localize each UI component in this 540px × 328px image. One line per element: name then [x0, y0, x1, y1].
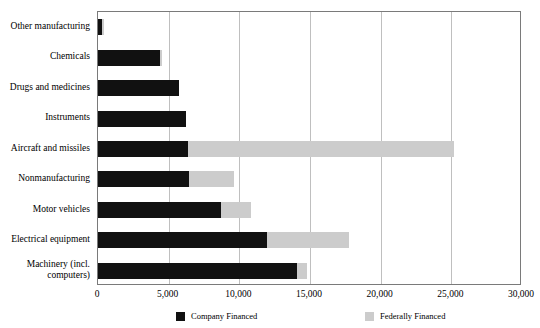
- legend-swatch-icon: [176, 312, 185, 321]
- bar-row: [98, 225, 520, 255]
- bar-row: [98, 134, 520, 164]
- bar-segment-federally-financed[interactable]: [221, 202, 251, 218]
- category-label: Drugs and medicines: [0, 82, 93, 93]
- bar-segment-federally-financed[interactable]: [189, 171, 234, 187]
- bar-row: [98, 73, 520, 103]
- bar-segment-federally-financed[interactable]: [188, 141, 454, 157]
- category-label-line: Instruments: [0, 112, 90, 123]
- bar-segment-federally-financed[interactable]: [267, 232, 349, 248]
- bar-row: [98, 256, 520, 286]
- category-label: Motor vehicles: [0, 204, 93, 215]
- bar-segment-company-financed[interactable]: [98, 50, 160, 66]
- bar-segment-company-financed[interactable]: [98, 80, 179, 96]
- stacked-bar[interactable]: [98, 232, 349, 248]
- legend-item[interactable]: Federally Financed: [365, 311, 445, 321]
- chart-legend: Company FinancedFederally Financed: [0, 311, 540, 325]
- bar-segment-federally-financed[interactable]: [160, 50, 162, 66]
- stacked-bar[interactable]: [98, 50, 162, 66]
- bar-segment-company-financed[interactable]: [98, 202, 221, 218]
- category-label: Aircraft and missiles: [0, 143, 93, 154]
- category-label-line: computers): [0, 270, 90, 281]
- legend-swatch-icon: [365, 312, 374, 321]
- bar-segment-federally-financed[interactable]: [102, 19, 104, 35]
- category-axis-labels: Other manufacturingChemicalsDrugs and me…: [0, 11, 93, 285]
- bar-row: [98, 103, 520, 133]
- value-tick-label: 20,000: [367, 288, 393, 300]
- value-axis-labels: 05,00010,00015,00020,00025,00030,000: [0, 288, 540, 302]
- category-label: Instruments: [0, 112, 93, 123]
- stacked-bar[interactable]: [98, 19, 104, 35]
- stacked-bar[interactable]: [98, 171, 234, 187]
- stacked-bar[interactable]: [98, 263, 307, 279]
- bar-row: [98, 164, 520, 194]
- category-label-line: Drugs and medicines: [0, 82, 90, 93]
- legend-item[interactable]: Company Financed: [176, 311, 257, 321]
- bar-segment-company-financed[interactable]: [98, 263, 297, 279]
- value-tick-label: 0: [95, 288, 100, 300]
- category-label: Chemicals: [0, 51, 93, 62]
- category-label-line: Electrical equipment: [0, 234, 90, 245]
- category-label-line: Chemicals: [0, 51, 90, 62]
- category-label-line: Machinery (incl.: [0, 259, 90, 270]
- legend-label: Federally Financed: [380, 311, 445, 321]
- category-label: Electrical equipment: [0, 234, 93, 245]
- bar-segment-company-financed[interactable]: [98, 232, 267, 248]
- value-tick-label: 25,000: [437, 288, 463, 300]
- category-label-line: Nonmanufacturing: [0, 173, 90, 184]
- value-tick-label: 5,000: [157, 288, 178, 300]
- bar-row: [98, 42, 520, 72]
- stacked-bar[interactable]: [98, 141, 454, 157]
- stacked-bar[interactable]: [98, 111, 186, 127]
- value-tick-label: 10,000: [225, 288, 251, 300]
- stacked-bar-chart: Other manufacturingChemicalsDrugs and me…: [0, 0, 540, 328]
- category-label: Machinery (incl.computers): [0, 259, 93, 280]
- category-label: Other manufacturing: [0, 21, 93, 32]
- bar-row: [98, 12, 520, 42]
- value-tick-label: 30,000: [508, 288, 534, 300]
- bar-segment-company-financed[interactable]: [98, 141, 188, 157]
- category-label: Nonmanufacturing: [0, 173, 93, 184]
- legend-label: Company Financed: [191, 311, 257, 321]
- bar-segment-federally-financed[interactable]: [297, 263, 308, 279]
- category-label-line: Aircraft and missiles: [0, 143, 90, 154]
- bar-segment-company-financed[interactable]: [98, 111, 186, 127]
- category-label-line: Other manufacturing: [0, 21, 90, 32]
- bar-row: [98, 195, 520, 225]
- value-tick-label: 15,000: [296, 288, 322, 300]
- category-label-line: Motor vehicles: [0, 204, 90, 215]
- bar-segment-company-financed[interactable]: [98, 171, 189, 187]
- stacked-bar[interactable]: [98, 80, 179, 96]
- plot-area: [97, 11, 521, 285]
- stacked-bar[interactable]: [98, 202, 251, 218]
